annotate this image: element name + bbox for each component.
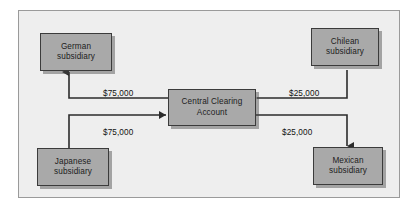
node-mexican-line2: subsidiary (329, 166, 367, 177)
diagram-frame: German subsidiary Chilean subsidiary Cen… (18, 10, 400, 198)
edge-label-japanese-to-central: $75,000 (103, 128, 133, 137)
node-mexican-line1: Mexican (332, 156, 363, 167)
node-german-line1: German (61, 42, 91, 53)
edge-label-central-to-mexican: $25,000 (282, 128, 312, 137)
edge-label-chilean-to-central: $25,000 (289, 89, 319, 98)
edge-label-central-to-german: $75,000 (103, 89, 133, 98)
node-central-line1: Central Clearing (182, 97, 243, 108)
node-chilean-line1: Chilean (331, 37, 359, 48)
node-central-line2: Account (197, 108, 227, 119)
node-japanese-line2: subsidiary (54, 167, 92, 178)
node-japanese[interactable]: Japanese subsidiary (37, 148, 109, 186)
node-german[interactable]: German subsidiary (40, 33, 112, 71)
node-chilean[interactable]: Chilean subsidiary (311, 28, 379, 66)
node-mexican[interactable]: Mexican subsidiary (313, 147, 383, 185)
node-japanese-line1: Japanese (55, 157, 91, 168)
node-central-clearing-account[interactable]: Central Clearing Account (168, 89, 256, 126)
node-chilean-line2: subsidiary (326, 47, 364, 58)
node-german-line2: subsidiary (57, 52, 95, 63)
diagram-canvas: German subsidiary Chilean subsidiary Cen… (0, 0, 416, 218)
